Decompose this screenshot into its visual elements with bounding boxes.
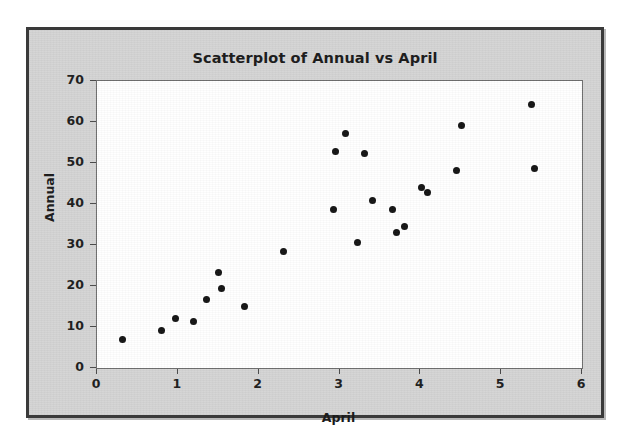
figure-panel: Scatterplot of Annual vs April Annual Ap… xyxy=(26,27,604,418)
data-point xyxy=(369,197,376,204)
x-axis-title: April xyxy=(96,410,581,425)
scatterplot-page: Scatterplot of Annual vs April Annual Ap… xyxy=(0,0,630,445)
data-point xyxy=(528,101,535,108)
plot-frame xyxy=(96,80,583,369)
y-tick-label: 30 xyxy=(50,238,84,251)
y-tick-label: 70 xyxy=(50,74,84,87)
x-tick-label: 1 xyxy=(165,378,189,391)
y-tick-label: 50 xyxy=(50,156,84,169)
data-point xyxy=(531,165,538,172)
y-tick-label: 40 xyxy=(50,197,84,210)
data-point xyxy=(172,315,179,322)
data-point xyxy=(401,223,408,230)
data-point xyxy=(342,130,349,137)
data-point xyxy=(241,303,248,310)
data-point xyxy=(332,148,339,155)
data-point xyxy=(393,229,400,236)
data-point xyxy=(361,150,368,157)
y-tick-label: 20 xyxy=(50,279,84,292)
x-tick-label: 2 xyxy=(246,378,270,391)
y-tick-label: 0 xyxy=(50,361,84,374)
data-point xyxy=(280,248,287,255)
data-point xyxy=(458,122,465,129)
data-point xyxy=(330,206,337,213)
data-point xyxy=(389,206,396,213)
data-point xyxy=(218,285,225,292)
x-tick-label: 3 xyxy=(327,378,351,391)
data-point xyxy=(203,296,210,303)
x-tick-label: 4 xyxy=(407,378,431,391)
data-point xyxy=(158,327,165,334)
data-point xyxy=(424,189,431,196)
x-tick-label: 6 xyxy=(569,378,593,391)
data-point xyxy=(215,269,222,276)
data-point xyxy=(119,336,126,343)
data-point xyxy=(354,239,361,246)
y-tick-label: 10 xyxy=(50,320,84,333)
data-point xyxy=(453,167,460,174)
y-tick-label: 60 xyxy=(50,115,84,128)
x-tick-label: 0 xyxy=(84,378,108,391)
plot-area xyxy=(97,81,582,368)
data-point xyxy=(190,318,197,325)
x-tick-label: 5 xyxy=(488,378,512,391)
chart-title: Scatterplot of Annual vs April xyxy=(29,50,601,66)
